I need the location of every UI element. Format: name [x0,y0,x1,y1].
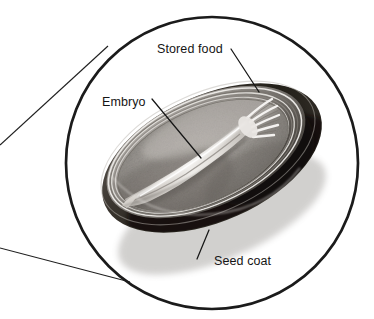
diagram-canvas: Stored food Embryo Seed coat [0,0,374,319]
label-seed-coat: Seed coat [214,255,271,268]
lower-tangent-line [0,248,130,282]
label-embryo: Embryo [102,96,146,109]
upper-tangent-line [0,46,108,145]
label-stored-food: Stored food [157,43,223,56]
